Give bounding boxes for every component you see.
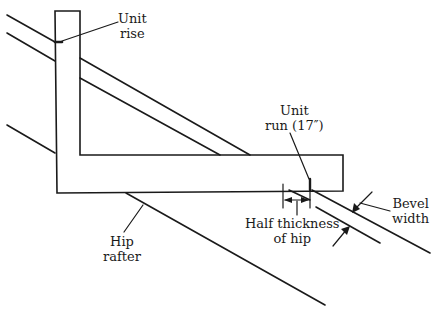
label-unit-rise: Unit rise xyxy=(118,11,147,41)
label-unit-run-line2: run (17″) xyxy=(265,118,324,133)
hip-rafter-lower-edge xyxy=(126,193,325,305)
label-unit-run-line1: Unit xyxy=(265,103,324,118)
label-half-thickness-line1: Half thickness xyxy=(245,216,340,231)
label-half-thickness: Half thickness of hip xyxy=(245,216,340,246)
label-bevel-width-line1: Bevel xyxy=(392,196,429,211)
label-unit-run: Unit run (17″) xyxy=(265,103,324,133)
rafter-top-edge-right xyxy=(80,58,250,155)
hip-rafter-edge-left xyxy=(7,125,55,153)
rafter-bottom-edge-right xyxy=(80,78,220,155)
label-hip-rafter: Hip rafter xyxy=(103,234,141,264)
label-half-thickness-line2: of hip xyxy=(245,231,340,246)
hip-rafter-leader xyxy=(124,205,143,232)
label-hip-rafter-line1: Hip xyxy=(103,234,141,249)
unit-rise-leader xyxy=(62,22,118,41)
arrowhead-left-icon xyxy=(284,197,292,203)
label-unit-rise-line2: rise xyxy=(118,26,147,41)
label-bevel-width: Bevel width xyxy=(392,196,429,226)
diagram-canvas: Unit rise Unit run (17″) Bevel width Hal… xyxy=(0,0,436,313)
label-hip-rafter-line2: rafter xyxy=(103,249,141,264)
framing-square-diagram xyxy=(0,0,436,313)
bevel-arrowhead-bottom-icon xyxy=(341,226,350,235)
label-bevel-width-line2: width xyxy=(392,211,429,226)
framing-square xyxy=(55,11,343,193)
label-unit-rise-line1: Unit xyxy=(118,11,147,26)
unit-run-leader xyxy=(290,133,309,179)
bevel-width-leader xyxy=(360,203,390,211)
